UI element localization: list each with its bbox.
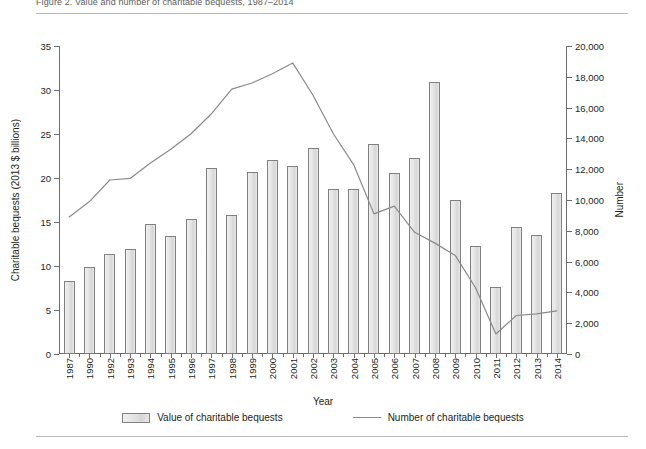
legend-item-value[interactable]: Value of charitable bequests — [122, 412, 282, 423]
x-axis-minor-tick — [161, 354, 162, 357]
legend-label-number: Number of charitable bequests — [388, 412, 524, 423]
legend-bar-swatch-icon — [122, 413, 150, 423]
x-axis-label-text: 2001 — [288, 358, 299, 379]
x-axis-minor-tick — [201, 354, 202, 357]
y-axis-right-tick-label: 14,000 — [575, 133, 604, 144]
x-axis-label-2012: 2012 — [511, 358, 522, 396]
y-axis-right-tick — [567, 292, 572, 293]
y-axis-right-tick-label: 6,000 — [575, 256, 599, 267]
x-axis-minor-tick — [181, 354, 182, 357]
x-axis-label-1996: 1996 — [186, 358, 197, 396]
x-axis-label-text: 1987 — [64, 358, 75, 379]
x-axis-label-1997: 1997 — [206, 358, 217, 396]
x-axis-label-2014: 2014 — [552, 358, 563, 396]
y-axis-left-title-text: Charitable bequests (2013 $ billions) — [10, 119, 21, 281]
x-axis-label-2006: 2006 — [389, 358, 400, 396]
y-axis-right-tick — [567, 169, 572, 170]
y-axis-right-title: Number — [612, 46, 626, 354]
divider-top — [36, 13, 628, 14]
y-axis-right-tick — [567, 200, 572, 201]
x-axis-label-2004: 2004 — [349, 358, 360, 396]
x-axis-label-1995: 1995 — [166, 358, 177, 396]
y-axis-left-tick-label: 0 — [46, 349, 51, 360]
x-axis-label-2003: 2003 — [328, 358, 339, 396]
legend-label-value: Value of charitable bequests — [157, 412, 282, 423]
x-axis-minor-tick — [445, 354, 446, 357]
x-axis-minor-tick — [283, 354, 284, 357]
x-axis-minor-tick — [486, 354, 487, 357]
x-axis-label-1998: 1998 — [227, 358, 238, 396]
y-axis-right-tick-label: 12,000 — [575, 164, 604, 175]
x-axis-label-text: 2005 — [369, 358, 380, 379]
x-axis-label-2009: 2009 — [450, 358, 461, 396]
x-axis-label-text: 2010 — [471, 358, 482, 379]
x-axis-label-2001: 2001 — [288, 358, 299, 396]
x-axis-minor-tick — [323, 354, 324, 357]
x-axis-minor-tick — [140, 354, 141, 357]
x-axis-label-2013: 2013 — [532, 358, 543, 396]
legend-item-number[interactable]: Number of charitable bequests — [353, 412, 524, 423]
x-axis-label-text: 1998 — [227, 358, 238, 379]
x-axis-label-text: 2000 — [267, 358, 278, 379]
x-axis-minor-tick — [222, 354, 223, 357]
line-series — [59, 46, 567, 354]
x-axis-label-text: 1995 — [166, 358, 177, 379]
x-axis-minor-tick — [79, 354, 80, 357]
y-axis-right-title-text: Number — [614, 182, 625, 218]
y-axis-left-title: Charitable bequests (2013 $ billions) — [8, 46, 22, 354]
y-axis-left-tick-label: 25 — [40, 129, 51, 140]
x-axis-minor-tick — [526, 354, 527, 357]
x-axis-label-1987: 1987 — [64, 358, 75, 396]
x-axis-label-text: 2004 — [349, 358, 360, 379]
x-axis-minor-tick — [425, 354, 426, 357]
y-axis-right-tick — [567, 77, 572, 78]
x-axis-label-text: 1990 — [84, 358, 95, 379]
x-axis-label-text: 2013 — [532, 358, 543, 379]
y-axis-right-tick — [567, 323, 572, 324]
y-axis-right-tick-label: 0 — [575, 349, 580, 360]
y-axis-left-tick-label: 20 — [40, 173, 51, 184]
x-axis-label-2002: 2002 — [308, 358, 319, 396]
y-axis-right-tick — [567, 108, 572, 109]
legend-line-swatch-icon — [353, 417, 381, 418]
x-axis-label-1992: 1992 — [105, 358, 116, 396]
y-axis-right-tick — [567, 262, 572, 263]
x-axis-label-2008: 2008 — [430, 358, 441, 396]
y-axis-right-tick-label: 2,000 — [575, 318, 599, 329]
chart-legend: Value of charitable bequests Number of c… — [0, 412, 646, 423]
y-axis-right-tick-label: 16,000 — [575, 102, 604, 113]
x-axis-label-2011: 2011 — [491, 358, 502, 396]
x-axis-label-text: 1994 — [145, 358, 156, 379]
figure-container: Figure 2. Value and number of charitable… — [0, 0, 646, 449]
y-axis-right-tick — [567, 354, 572, 355]
x-axis-label-text: 2012 — [511, 358, 522, 379]
y-axis-left-tick-label: 5 — [46, 305, 51, 316]
y-axis-right-tick — [567, 138, 572, 139]
y-axis-right-tick-label: 4,000 — [575, 287, 599, 298]
x-axis-label-1999: 1999 — [247, 358, 258, 396]
x-axis-label-2005: 2005 — [369, 358, 380, 396]
plot-area: 05101520253035 02,0004,0006,0008,00010,0… — [59, 46, 567, 354]
x-axis-minor-tick — [262, 354, 263, 357]
y-axis-left-tick-label: 10 — [40, 261, 51, 272]
x-axis-label-2007: 2007 — [410, 358, 421, 396]
y-axis-left-tick-label: 15 — [40, 217, 51, 228]
x-axis-label-1994: 1994 — [145, 358, 156, 396]
x-axis-label-text: 2003 — [328, 358, 339, 379]
x-axis-label-text: 2002 — [308, 358, 319, 379]
x-axis-label-text: 2008 — [430, 358, 441, 379]
x-axis-minor-tick — [120, 354, 121, 357]
x-axis-label-2000: 2000 — [267, 358, 278, 396]
x-axis-label-text: 1992 — [105, 358, 116, 379]
y-axis-right-tick — [567, 46, 572, 47]
x-axis-minor-tick — [364, 354, 365, 357]
x-axis-minor-tick — [343, 354, 344, 357]
x-axis-label-text: 2011 — [491, 358, 502, 378]
x-axis-title: Year — [0, 396, 646, 407]
x-axis-label-text: 2007 — [410, 358, 421, 379]
y-axis-right-tick-label: 8,000 — [575, 225, 599, 236]
x-axis-label-2010: 2010 — [471, 358, 482, 396]
x-axis-label-text: 2014 — [552, 358, 563, 379]
figure-title: Figure 2. Value and number of charitable… — [36, 0, 628, 7]
x-axis-minor-tick — [547, 354, 548, 357]
